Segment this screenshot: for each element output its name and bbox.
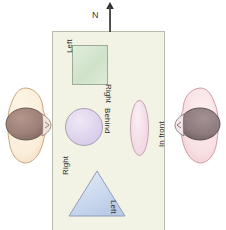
compass-north-group: N	[92, 2, 132, 30]
label-square-right: Right	[104, 84, 112, 103]
label-in-front: In front	[158, 121, 166, 147]
label-triangle-left: Left	[109, 200, 117, 214]
object-square	[72, 45, 108, 85]
spatial-perspective-diagram: N Left Right Behind In front Right Left	[0, 0, 226, 230]
label-square-left: Left	[66, 39, 74, 53]
observer-right	[168, 84, 224, 168]
object-circle	[65, 108, 103, 146]
object-ellipse	[130, 100, 149, 156]
north-label: N	[92, 11, 99, 20]
north-arrow-icon	[104, 2, 116, 32]
observer-left	[2, 84, 58, 168]
label-triangle-right: Right	[62, 156, 70, 175]
label-behind: Behind	[103, 108, 111, 134]
